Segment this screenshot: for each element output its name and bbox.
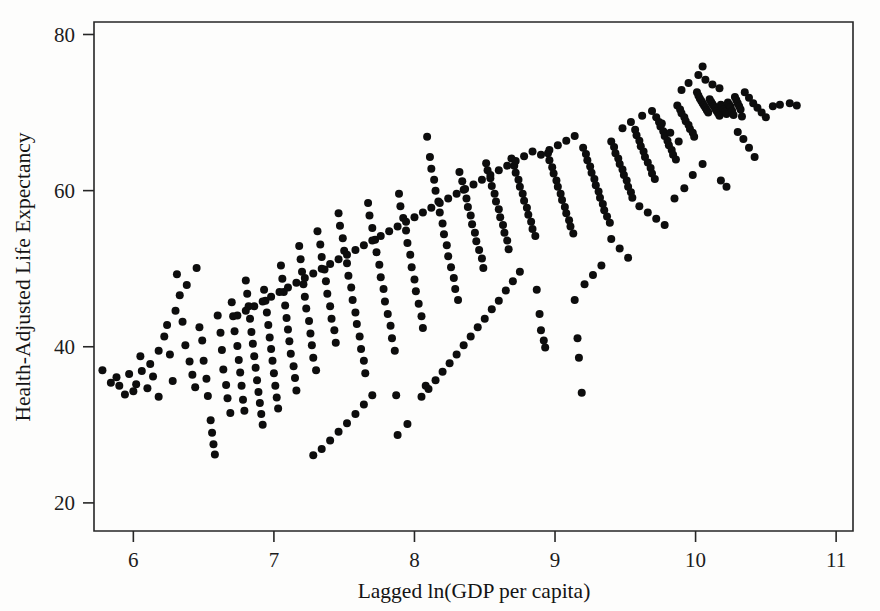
data-point <box>512 157 520 165</box>
x-tick-label: 10 <box>685 548 706 572</box>
data-point <box>537 151 545 159</box>
data-point <box>169 377 177 385</box>
data-point <box>375 261 383 269</box>
data-point <box>496 213 504 221</box>
data-point <box>558 196 566 204</box>
data-point <box>574 334 582 342</box>
data-point <box>524 211 532 219</box>
data-point <box>734 128 742 136</box>
data-point <box>694 71 702 79</box>
data-point <box>488 305 496 313</box>
data-point <box>505 245 513 253</box>
data-point <box>330 326 338 334</box>
data-point <box>306 329 314 337</box>
data-point <box>571 132 579 140</box>
data-point <box>436 208 444 216</box>
data-point <box>336 222 344 230</box>
data-point <box>240 407 248 415</box>
data-point <box>193 264 201 272</box>
data-point <box>335 255 343 263</box>
data-point <box>356 333 364 341</box>
data-point <box>284 283 292 291</box>
data-point <box>423 133 431 141</box>
data-point <box>343 259 351 267</box>
data-point <box>252 364 260 372</box>
data-point <box>186 358 194 366</box>
data-point <box>395 190 403 198</box>
data-point <box>183 281 191 289</box>
data-point <box>708 80 716 88</box>
x-tick-label: 9 <box>550 548 561 572</box>
data-point <box>224 394 232 402</box>
data-point <box>121 390 129 398</box>
data-point <box>308 341 316 349</box>
data-point <box>571 296 579 304</box>
data-point <box>738 112 746 120</box>
data-point <box>486 171 494 179</box>
data-point <box>396 202 404 210</box>
data-point <box>644 208 652 216</box>
data-point <box>368 391 376 399</box>
data-point <box>704 109 712 117</box>
data-point <box>316 240 324 248</box>
y-axis-title: Health-Adjusted Life Expectancy <box>11 132 35 421</box>
data-point <box>349 296 357 304</box>
data-point <box>562 137 570 145</box>
data-point <box>541 344 549 352</box>
data-point <box>512 169 520 177</box>
data-point <box>292 386 300 394</box>
data-point <box>410 213 418 221</box>
data-point <box>492 198 500 206</box>
figure-container: 20406080 67891011 Lagged ln(GDP per capi… <box>0 0 880 611</box>
data-point <box>281 301 289 309</box>
data-point <box>554 183 562 191</box>
data-point <box>432 187 440 195</box>
data-point <box>385 227 393 235</box>
x-tick-label: 11 <box>826 548 846 572</box>
data-point <box>266 333 274 341</box>
data-point <box>467 212 475 220</box>
data-point <box>222 381 230 389</box>
data-point <box>173 270 181 278</box>
data-point <box>277 262 285 270</box>
data-point <box>678 86 686 94</box>
data-point <box>509 277 517 285</box>
x-axis-title: Lagged ln(GDP per capita) <box>358 579 591 603</box>
data-point <box>291 374 299 382</box>
data-point <box>519 190 527 198</box>
data-point <box>254 388 262 396</box>
data-point <box>408 263 416 271</box>
data-point <box>786 99 794 107</box>
data-point <box>723 183 731 191</box>
data-point <box>209 440 217 448</box>
data-point <box>129 387 137 395</box>
data-point <box>745 144 753 152</box>
scatter-plot-figure: 20406080 67891011 Lagged ln(GDP per capi… <box>0 0 880 611</box>
data-point <box>581 280 589 288</box>
data-point <box>403 420 411 428</box>
data-point <box>447 263 455 271</box>
data-point <box>739 135 747 143</box>
data-point <box>250 352 258 360</box>
data-point <box>195 323 203 331</box>
data-point <box>236 369 244 377</box>
data-point <box>394 431 402 439</box>
data-point <box>290 362 298 370</box>
data-point <box>278 275 286 283</box>
data-point <box>460 341 468 349</box>
y-tick-label: 40 <box>54 335 75 359</box>
data-point <box>453 351 461 359</box>
data-point <box>453 190 461 198</box>
data-point <box>503 237 511 245</box>
data-point <box>256 399 264 407</box>
y-tick-label: 60 <box>54 179 75 203</box>
data-point <box>335 428 343 436</box>
data-point <box>751 153 759 161</box>
data-point <box>301 293 309 301</box>
data-point <box>419 208 427 216</box>
data-point <box>302 305 310 313</box>
data-point <box>239 396 247 404</box>
data-point <box>381 297 389 305</box>
data-point <box>247 328 255 336</box>
x-tick-label: 8 <box>409 548 420 572</box>
